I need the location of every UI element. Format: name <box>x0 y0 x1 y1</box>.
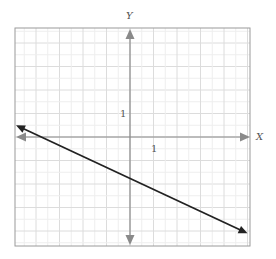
y-tick-label: 1 <box>120 108 126 119</box>
x-axis <box>16 133 250 142</box>
y-axis-arrow-up-icon <box>126 29 135 39</box>
coordinate-plane <box>0 0 276 259</box>
y-axis-label: Y <box>126 10 133 21</box>
x-axis-arrow-right-icon <box>240 133 250 142</box>
x-axis-label: X <box>256 131 263 142</box>
x-axis-arrow-left-icon <box>16 133 26 142</box>
plotted-line <box>16 125 247 233</box>
x-tick-label: 1 <box>151 143 157 154</box>
y-axis-arrow-down-icon <box>126 235 135 245</box>
